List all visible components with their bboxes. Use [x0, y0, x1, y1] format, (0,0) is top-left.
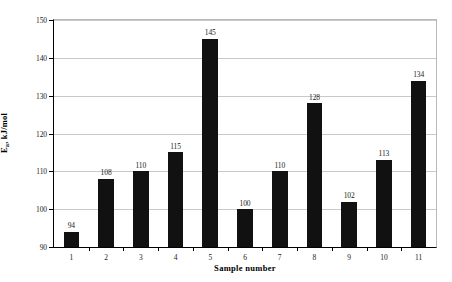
bar[interactable] [307, 103, 323, 247]
bar-slot: 108 [98, 20, 114, 247]
bar-slot: 100 [237, 20, 253, 247]
bar[interactable] [411, 81, 427, 247]
bar[interactable] [168, 152, 184, 247]
y-axis-tick-label: 140 [36, 53, 47, 62]
x-axis-tick [123, 247, 124, 251]
y-axis-tick-label: 110 [36, 167, 47, 176]
bar-value-label: 100 [240, 199, 251, 208]
x-axis-tick-label: 10 [380, 253, 388, 262]
y-axis-tick [49, 171, 54, 172]
bar-slot: 145 [202, 20, 218, 247]
y-axis-title-units: , kJ/mol [0, 113, 9, 144]
bar-value-label: 145 [205, 28, 216, 37]
bar[interactable] [98, 179, 114, 247]
bar[interactable] [133, 171, 149, 247]
y-axis-tick [49, 96, 54, 97]
plot-area: 9010011012013014015094110821103115414551… [53, 19, 437, 248]
bar-value-label: 94 [68, 221, 75, 230]
y-axis-tick-label: 130 [36, 91, 47, 100]
y-axis-tick [49, 209, 54, 210]
x-axis-tick-label: 1 [69, 253, 73, 262]
bar-wrapper: 100 [237, 209, 253, 247]
x-axis-title: Sample number [53, 263, 437, 273]
y-axis-tick [49, 20, 54, 21]
bar-wrapper: 115 [168, 152, 184, 247]
y-axis-tick [49, 134, 54, 135]
x-axis-tick [228, 247, 229, 251]
x-axis-tick-label: 5 [208, 253, 212, 262]
y-axis-tick-label: 100 [36, 205, 47, 214]
bar-slot: 94 [64, 20, 80, 247]
bar-wrapper: 113 [376, 160, 392, 247]
bar-wrapper: 94 [64, 232, 80, 247]
bar-slot: 128 [307, 20, 323, 247]
bar-wrapper: 134 [411, 81, 427, 247]
bar-slot: 110 [272, 20, 288, 247]
y-axis-title: Ea, kJ/mol [0, 113, 9, 153]
bar-value-label: 110 [135, 161, 146, 170]
x-axis-tick [297, 247, 298, 251]
x-axis-tick [332, 247, 333, 251]
x-axis-tick-label: 7 [278, 253, 282, 262]
y-axis-title-subscript: a [3, 144, 10, 147]
bar-value-label: 113 [379, 149, 390, 158]
x-axis-tick [89, 247, 90, 251]
x-axis-tick [193, 247, 194, 251]
y-axis-tick-label: 90 [40, 243, 47, 252]
bar-slot: 113 [376, 20, 392, 247]
bar-wrapper: 110 [133, 171, 149, 247]
x-axis-tick-label: 2 [104, 253, 108, 262]
bar-value-label: 134 [413, 70, 424, 79]
bar-slot: 115 [168, 20, 184, 247]
x-axis-tick [158, 247, 159, 251]
bar[interactable] [202, 39, 218, 247]
bar-value-label: 128 [309, 93, 320, 102]
chart-figure: Ea, kJ/mol 90100110120130140150941108211… [0, 0, 452, 282]
x-axis-tick-label: 3 [139, 253, 143, 262]
x-axis-tick [262, 247, 263, 251]
bar-wrapper: 128 [307, 103, 323, 247]
bar-wrapper: 110 [272, 171, 288, 247]
bar-value-label: 102 [344, 191, 355, 200]
bar[interactable] [64, 232, 80, 247]
bar-slot: 110 [133, 20, 149, 247]
bar-wrapper: 108 [98, 179, 114, 247]
bar[interactable] [376, 160, 392, 247]
y-axis-title-base: E [0, 147, 9, 153]
x-axis-tick-label: 11 [415, 253, 422, 262]
bar-value-label: 115 [170, 142, 181, 151]
x-axis-tick-label: 8 [313, 253, 317, 262]
x-axis-tick [401, 247, 402, 251]
bar-wrapper: 102 [341, 202, 357, 247]
bar-slot: 102 [341, 20, 357, 247]
x-axis-tick-label: 4 [174, 253, 178, 262]
bar-value-label: 108 [101, 168, 112, 177]
bar[interactable] [237, 209, 253, 247]
y-axis-tick-label: 150 [36, 16, 47, 25]
bar[interactable] [341, 202, 357, 247]
y-axis-tick [49, 58, 54, 59]
bar-slot: 134 [411, 20, 427, 247]
bar-wrapper: 145 [202, 39, 218, 247]
x-axis-tick-label: 6 [243, 253, 247, 262]
x-axis-tick [367, 247, 368, 251]
y-axis-tick-label: 120 [36, 129, 47, 138]
bar[interactable] [272, 171, 288, 247]
bar-value-label: 110 [274, 161, 285, 170]
y-axis-tick [49, 247, 54, 248]
x-axis-tick-label: 9 [347, 253, 351, 262]
